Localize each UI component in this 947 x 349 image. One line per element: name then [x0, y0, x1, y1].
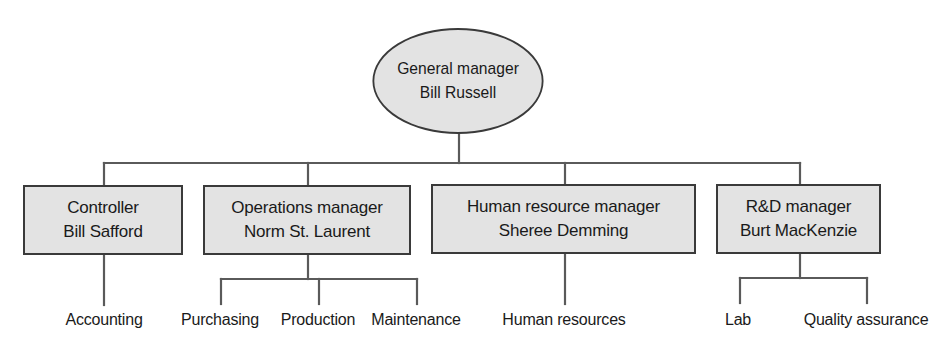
dept-purchasing: Purchasing [181, 309, 259, 331]
node-operations-manager: Operations manager Norm St. Laurent [203, 185, 411, 255]
node-title: R&D manager [746, 195, 852, 219]
node-controller: Controller Bill Safford [23, 185, 183, 255]
node-title: Human resource manager [467, 195, 660, 219]
dept-lab: Lab [725, 309, 751, 331]
node-person: Bill Safford [63, 220, 143, 244]
node-person: Norm St. Laurent [244, 220, 370, 244]
node-rd-manager: R&D manager Burt MacKenzie [716, 184, 881, 254]
node-person: Sheree Demming [499, 219, 628, 243]
node-person: Burt MacKenzie [740, 219, 857, 243]
node-title: Controller [67, 196, 139, 220]
node-title: Operations manager [231, 196, 382, 220]
dept-accounting: Accounting [65, 309, 142, 331]
node-human-resource-manager: Human resource manager Sheree Demming [431, 184, 696, 254]
dept-maintenance: Maintenance [371, 309, 460, 331]
node-general-manager: General manager Bill Russell [372, 28, 543, 134]
node-title: General manager [397, 57, 519, 81]
org-chart: General manager Bill Russell Controller … [0, 0, 947, 349]
dept-human-resources: Human resources [502, 309, 625, 331]
dept-production: Production [281, 309, 356, 331]
node-person: Bill Russell [420, 81, 496, 105]
dept-quality-assurance: Quality assurance [804, 309, 929, 331]
